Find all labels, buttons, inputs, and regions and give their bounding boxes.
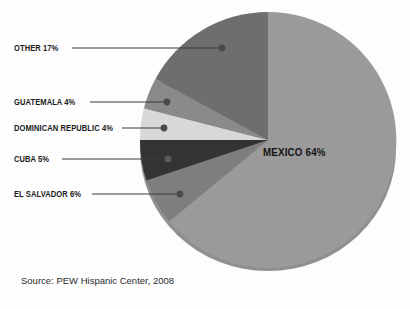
slice-label-cuba: CUBA 5% [14,155,49,165]
leader-dot-other [219,45,226,52]
slice-label-dominican-republic: DOMINICAN REPUBLIC 4% [14,124,113,134]
pie-chart-canvas [0,0,410,309]
slice-label-el-salvador: EL SALVADOR 6% [14,190,81,200]
source-note: Source: PEW Hispanic Center, 2008 [21,275,174,286]
leader-dot-el-salvador [177,191,184,198]
slice-label-mexico: MEXICO 64% [263,146,326,158]
leader-dot-cuba [165,156,172,163]
pie-chart-figure: OTHER 17% GUATEMALA 4% DOMINICAN REPUBLI… [0,0,410,309]
slice-label-guatemala: GUATEMALA 4% [14,98,75,108]
slice-label-other: OTHER 17% [14,44,58,54]
leader-dot-dominican-republic [161,125,168,132]
leader-dot-guatemala [164,99,171,106]
